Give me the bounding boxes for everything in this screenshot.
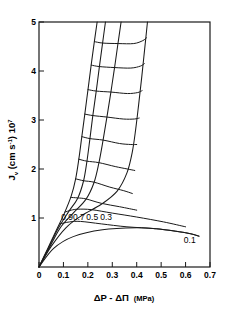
y-tick-label-0: 1 bbox=[31, 213, 36, 223]
y-axis-title-exp2: 7 bbox=[7, 119, 13, 123]
x-tick-label-7: 0.7 bbox=[204, 270, 216, 280]
x-axis-title-text: ΔP - ΔΠ(MPa) bbox=[94, 292, 155, 303]
curve-0.7 bbox=[39, 22, 105, 267]
x-axis-title-main: ΔP - ΔΠ bbox=[94, 292, 129, 303]
y-axis-title-text: Jv (cm s-1) 107 bbox=[6, 119, 19, 181]
x-tick-label-0: 0 bbox=[37, 270, 42, 280]
x-axis-title-units: (MPa) bbox=[134, 294, 155, 303]
data-curves-group bbox=[39, 22, 199, 267]
curve-label-0.1: 0.1 bbox=[184, 235, 196, 245]
mesh-curves-group bbox=[60, 38, 199, 236]
y-axis-title-rest: (cm s bbox=[6, 144, 17, 171]
curve-label-0.3: 0.3 bbox=[100, 212, 112, 222]
curve-label-0.9: 0.9 bbox=[61, 212, 73, 222]
y-tick-label-3: 4 bbox=[31, 66, 36, 76]
chart-svg: 0.90.70.50.30.1 00.10.20.30.40.50.60.7 1… bbox=[0, 0, 232, 312]
y-tick-label-2: 3 bbox=[31, 115, 36, 125]
curve-label-0.5: 0.5 bbox=[86, 212, 98, 222]
y-axis-title: Jv (cm s-1) 107 bbox=[6, 119, 19, 181]
y-tick-label-4: 5 bbox=[31, 17, 36, 27]
x-axis-ticks bbox=[39, 262, 210, 267]
chart-figure: 0.90.70.50.30.1 00.10.20.30.40.50.60.7 1… bbox=[0, 0, 232, 312]
x-tick-label-5: 0.5 bbox=[155, 270, 167, 280]
y-axis-ticks bbox=[39, 22, 44, 218]
x-axis-title: ΔP - ΔΠ(MPa) bbox=[94, 292, 155, 303]
x-tick-label-2: 0.2 bbox=[82, 270, 94, 280]
curve-0.1 bbox=[39, 228, 199, 267]
curve-label-0.7: 0.7 bbox=[73, 212, 85, 222]
x-tick-label-3: 0.3 bbox=[106, 270, 118, 280]
y-tick-label-1: 2 bbox=[31, 164, 36, 174]
x-tick-label-1: 0.1 bbox=[58, 270, 70, 280]
mesh-3 bbox=[71, 197, 137, 210]
x-tick-label-6: 0.6 bbox=[180, 270, 192, 280]
y-axis-title-rest2: ) 10 bbox=[6, 123, 17, 139]
x-tick-label-4: 0.4 bbox=[131, 270, 143, 280]
curve-0.9 bbox=[39, 22, 97, 267]
x-axis-tick-labels: 00.10.20.30.40.50.60.7 bbox=[37, 270, 217, 280]
curve-0.5 bbox=[39, 22, 121, 267]
y-axis-tick-labels: 12345 bbox=[31, 17, 36, 223]
